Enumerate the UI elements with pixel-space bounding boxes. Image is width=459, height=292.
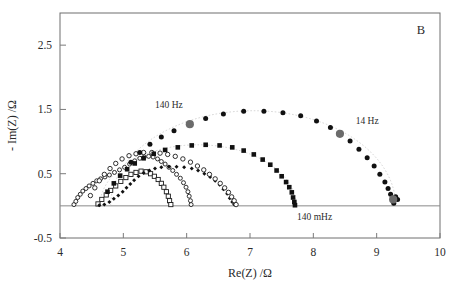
- data-point-open-circle: [102, 172, 106, 176]
- data-point-open-circle: [188, 199, 192, 203]
- data-point-open-circle: [91, 181, 95, 185]
- data-point-open-circle: [186, 190, 190, 194]
- plot-background: [0, 0, 459, 292]
- data-point-filled-circle: [261, 109, 266, 114]
- data-point-open-circle: [163, 162, 167, 166]
- data-point-filled-square: [141, 156, 146, 161]
- nyquist-plot: 45678910-0.50.51.52.5Re(Z) /Ω- Im(Z) /Ω …: [0, 0, 459, 292]
- data-point-filled-square: [151, 151, 156, 156]
- data-point-filled-square: [241, 148, 246, 153]
- y-tick-label-0.5: 0.5: [38, 168, 53, 180]
- impedance-figure: 45678910-0.50.51.52.5Re(Z) /Ω- Im(Z) /Ω …: [0, 0, 459, 292]
- data-point-open-circle: [188, 160, 192, 164]
- highlight-marker-14-hz: [336, 130, 344, 138]
- data-point-open-circle: [138, 156, 142, 160]
- data-point-filled-square: [230, 145, 235, 150]
- data-point-open-square: [129, 172, 133, 176]
- data-point-open-circle: [97, 179, 101, 183]
- data-point-filled-square: [105, 189, 110, 194]
- data-point-filled-square: [287, 185, 292, 190]
- data-point-open-circle: [207, 172, 211, 176]
- data-point-open-circle: [74, 199, 78, 203]
- data-point-open-circle: [112, 170, 116, 174]
- data-point-open-circle: [147, 154, 151, 158]
- data-point-filled-square: [118, 173, 123, 178]
- data-point-open-circle: [165, 152, 169, 156]
- data-point-filled-square: [189, 143, 194, 148]
- data-point-filled-circle: [382, 180, 387, 185]
- data-point-open-circle: [93, 186, 97, 190]
- highlight-marker-140-hz: [186, 120, 194, 128]
- data-point-filled-circle: [128, 160, 133, 165]
- data-point-open-circle: [181, 157, 185, 161]
- data-point-filled-square: [163, 148, 168, 153]
- data-point-open-circle: [173, 154, 177, 158]
- data-point-filled-square: [290, 190, 295, 195]
- data-point-filled-square: [176, 145, 181, 150]
- data-point-filled-circle: [137, 150, 142, 155]
- data-point-open-circle: [118, 168, 122, 172]
- data-point-open-circle: [171, 169, 175, 173]
- data-point-open-square: [134, 170, 138, 174]
- data-point-filled-circle: [221, 111, 226, 116]
- data-point-open-circle: [178, 176, 182, 180]
- data-point-open-circle: [187, 194, 191, 198]
- data-point-open-circle: [234, 202, 238, 206]
- data-point-filled-square: [125, 167, 130, 172]
- data-point-open-square: [124, 175, 128, 179]
- data-point-open-circle: [175, 172, 179, 176]
- x-axis-title: Re(Z) /Ω: [228, 266, 272, 280]
- x-tick-label-10: 10: [434, 246, 446, 258]
- data-point-filled-circle: [328, 125, 333, 130]
- data-point-filled-circle: [348, 138, 353, 143]
- y-axis-title: - Im(Z) /Ω: [5, 100, 19, 151]
- data-point-open-circle: [87, 184, 91, 188]
- data-point-filled-circle: [372, 164, 377, 169]
- data-point-open-circle: [159, 160, 163, 164]
- data-point-filled-circle: [365, 155, 370, 160]
- data-point-open-circle: [189, 203, 193, 207]
- data-point-open-circle: [120, 157, 124, 161]
- data-point-open-circle: [222, 186, 226, 190]
- data-point-filled-circle: [203, 116, 208, 121]
- data-point-open-square: [119, 179, 123, 183]
- data-point-filled-circle: [241, 109, 246, 114]
- highlight-marker-140-mhz: [389, 195, 397, 203]
- data-point-open-circle: [107, 173, 111, 177]
- data-point-open-circle: [184, 185, 188, 189]
- x-tick-label-4: 4: [57, 246, 63, 258]
- data-point-open-circle: [88, 193, 92, 197]
- panel-label: B: [417, 23, 425, 37]
- data-point-filled-square: [293, 203, 298, 208]
- data-point-open-circle: [158, 151, 162, 155]
- data-point-open-circle: [202, 168, 206, 172]
- data-point-filled-square: [274, 168, 279, 173]
- data-point-filled-square: [203, 142, 208, 147]
- data-point-filled-circle: [280, 110, 285, 115]
- annotation-140-mhz: 140 mHz: [297, 212, 332, 222]
- data-point-filled-circle: [314, 119, 319, 124]
- x-tick-label-9: 9: [374, 246, 380, 258]
- data-point-filled-circle: [356, 147, 361, 152]
- data-point-open-square: [166, 194, 170, 198]
- data-point-open-circle: [218, 181, 222, 185]
- data-point-open-square: [164, 190, 168, 194]
- data-point-filled-square: [284, 180, 289, 185]
- y-tick-label--0.5: -0.5: [34, 232, 52, 244]
- data-point-filled-circle: [172, 128, 177, 133]
- data-point-filled-circle: [159, 135, 164, 140]
- data-point-open-circle: [213, 177, 217, 181]
- data-point-open-circle: [156, 157, 160, 161]
- data-point-filled-square: [260, 157, 265, 162]
- x-tick-label-6: 6: [184, 246, 190, 258]
- annotation-14-hz: 14 Hz: [356, 116, 379, 126]
- data-point-open-circle: [226, 190, 230, 194]
- data-point-filled-square: [268, 162, 273, 167]
- data-point-open-circle: [108, 166, 112, 170]
- data-point-open-square: [169, 202, 173, 206]
- data-point-open-circle: [114, 161, 118, 165]
- data-point-filled-square: [112, 181, 117, 186]
- data-point-open-square: [100, 197, 104, 201]
- data-point-filled-square: [291, 195, 296, 200]
- data-point-open-circle: [195, 164, 199, 168]
